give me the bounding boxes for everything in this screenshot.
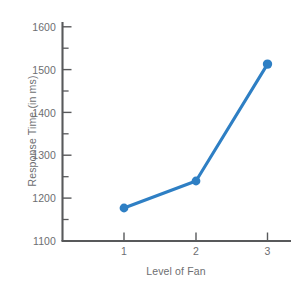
data-point-marker xyxy=(263,59,272,68)
data-series-line xyxy=(124,64,268,208)
y-axis-title: Response Time (in ms) xyxy=(26,51,38,211)
y-tick-label-1600: 1600 xyxy=(22,21,56,33)
line-chart: 1600 1500 1400 1300 1200 1100 1 2 3 Leve… xyxy=(0,0,298,288)
x-axis-title: Level of Fan xyxy=(62,265,290,277)
x-tick-label-3: 3 xyxy=(258,245,278,257)
data-point-markers xyxy=(120,59,273,212)
y-tick-label-1100: 1100 xyxy=(22,235,56,247)
x-tick-label-2: 2 xyxy=(186,245,206,257)
data-point-marker xyxy=(192,177,201,186)
x-tick-label-1: 1 xyxy=(114,245,134,257)
data-point-marker xyxy=(120,204,129,213)
x-axis-ticks xyxy=(124,233,268,242)
